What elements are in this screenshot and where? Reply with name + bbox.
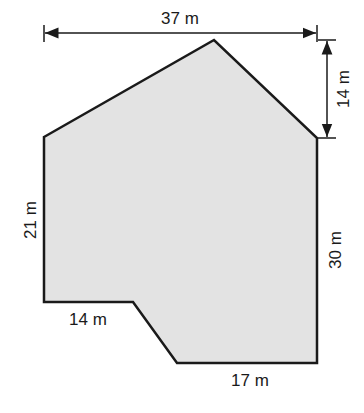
label-left-side: 21 m	[21, 201, 40, 239]
label-bottom-left: 14 m	[69, 310, 107, 329]
label-right-side: 30 m	[326, 231, 345, 269]
roof-height-dimension: 14 m	[318, 40, 353, 138]
diagram-canvas: 37 m 14 m 21 m 30 m 14 m 17 m	[0, 0, 364, 413]
label-top-width: 37 m	[161, 9, 199, 28]
label-roof-height: 14 m	[334, 70, 353, 108]
top-width-dimension: 37 m	[44, 9, 317, 42]
label-bottom-right: 17 m	[231, 371, 269, 390]
